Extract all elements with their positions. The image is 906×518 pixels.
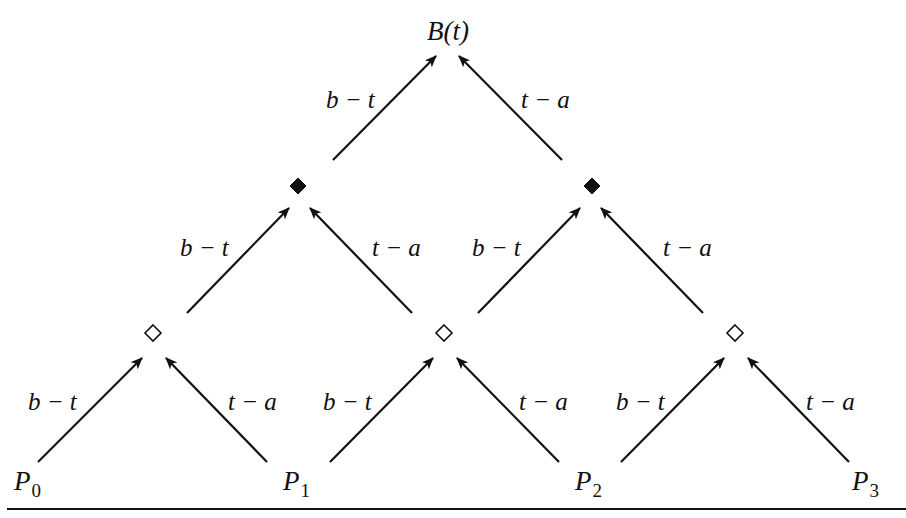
edge-weight-label: t − a	[519, 388, 568, 415]
edge-weight-label: t − a	[228, 388, 277, 415]
nodes-group: P0P1P2P3	[13, 178, 879, 501]
control-point-label-p1: P1	[282, 466, 310, 501]
edge-weight-label: t − a	[372, 234, 421, 261]
edge-weight-label: b − t	[326, 86, 376, 113]
edge-weight-label: t − a	[663, 234, 712, 261]
edge-weight-label: b − t	[472, 234, 522, 261]
bernstein-pyramid-diagram: b − tt − ab − tt − ab − tt − ab − tt − a…	[0, 0, 906, 518]
edge-weight-label: b − t	[323, 388, 373, 415]
control-point-label-p3: P3	[851, 466, 879, 501]
edge-weight-label: b − t	[180, 234, 230, 261]
edge-weight-label: b − t	[28, 388, 78, 415]
edge-weight-label: b − t	[616, 388, 666, 415]
control-point-label-p0: P0	[13, 466, 41, 501]
edge-weight-label: t − a	[806, 388, 855, 415]
edges-group	[38, 56, 849, 462]
edge-labels-group: b − tt − ab − tt − ab − tt − ab − tt − a…	[28, 86, 855, 415]
open-diamond-node-icon	[145, 325, 161, 341]
control-point-label-p2: P2	[574, 466, 602, 501]
open-diamond-node-icon	[727, 325, 743, 341]
open-diamond-node-icon	[436, 325, 452, 341]
filled-diamond-node-icon	[584, 178, 600, 194]
filled-diamond-node-icon	[290, 178, 306, 194]
top-node-label-b-of-t: B(t)	[427, 16, 469, 46]
edge-weight-label: t − a	[521, 86, 570, 113]
